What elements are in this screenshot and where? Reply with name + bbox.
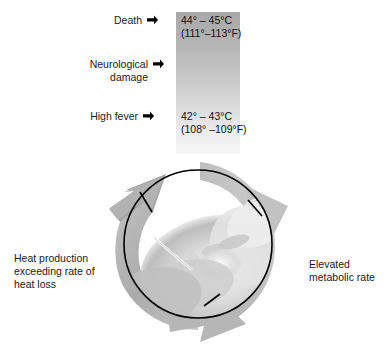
arrowhead-right-icon — [143, 110, 154, 122]
positive-feedback-cycle — [96, 146, 300, 348]
caption-right-line1: Elevated — [309, 258, 391, 271]
scale-label-neuro-line2: damage — [60, 71, 148, 84]
scale-label-death: Death — [90, 14, 142, 27]
scale-label-high-fever: High fever — [72, 110, 138, 123]
caption-heat-production: Heat production exceeding rate of heat l… — [14, 252, 124, 290]
caption-left-line1: Heat production — [14, 252, 124, 265]
value-celsius-death: 44° – 45°C — [181, 14, 241, 27]
caption-elevated-metabolic-rate: Elevated metabolic rate — [309, 258, 391, 284]
caption-left-line2: exceeding rate of — [14, 265, 124, 278]
scale-row-high-fever: High fever — [72, 110, 158, 123]
scale-label-neuro-line1: Neurological — [60, 58, 148, 71]
scale-label-neurological-damage: Neurological damage — [60, 58, 148, 83]
value-celsius-high-fever: 42° – 43°C — [181, 110, 247, 123]
value-fahrenheit-high-fever: (108° –109°F) — [181, 123, 247, 136]
scale-row-death: Death — [90, 14, 162, 27]
scale-row-neurological-damage: Neurological damage — [60, 58, 168, 83]
caption-left-line3: heat loss — [14, 278, 124, 291]
value-fahrenheit-death: (111°–113°F) — [181, 27, 241, 40]
caption-right-line2: metabolic rate — [309, 271, 391, 284]
hyperthermia-diagram: Death 44° – 45°C (111°–113°F) Neurologic… — [0, 0, 392, 348]
value-block-high-fever: 42° – 43°C (108° –109°F) — [181, 110, 247, 135]
arrowhead-right-icon — [153, 58, 164, 70]
value-block-death: 44° – 45°C (111°–113°F) — [181, 14, 241, 39]
arrowhead-right-icon — [147, 14, 158, 26]
